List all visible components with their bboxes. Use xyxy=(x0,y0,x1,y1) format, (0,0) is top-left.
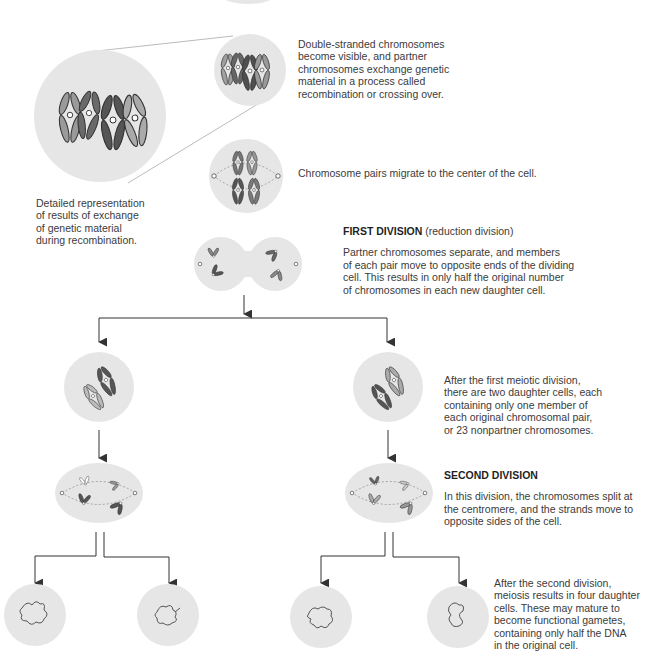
first-division-subheading: (reduction division) xyxy=(425,225,513,237)
daughter-cell-left xyxy=(64,352,134,422)
caption-line: in the original cell. xyxy=(494,639,640,651)
caption-line: material in a process called xyxy=(298,75,449,87)
caption-line: After the second division, xyxy=(494,577,640,589)
gamete-4 xyxy=(427,586,489,648)
caption-line: during recombination. xyxy=(36,234,145,246)
second-division-heading: SECOND DIVISION xyxy=(444,469,633,481)
recombination-cell xyxy=(214,34,286,106)
caption-line: containing only one member of xyxy=(444,399,602,411)
caption-line: of each pair move to opposite ends of th… xyxy=(343,259,574,271)
caption-line: each original chromosomal pair, xyxy=(444,411,602,423)
meiosis-2-cell-left xyxy=(55,463,143,523)
caption-line: containing only half the DNA xyxy=(494,627,640,639)
caption-line: Detailed representation xyxy=(36,197,145,209)
migrate-caption: Chromosome pairs migrate to the center o… xyxy=(298,167,537,179)
caption-line: the centromere, and the strands move to xyxy=(444,503,633,515)
caption-line: of chromosomes in each new daughter cell… xyxy=(343,284,574,296)
recombination-caption: Double-stranded chromosomes become visib… xyxy=(298,38,449,100)
second-division-caption: SECOND DIVISION In this division, the ch… xyxy=(444,469,633,528)
caption-line: recombination or crossing over. xyxy=(298,88,449,100)
caption-line: cells. These may mature to xyxy=(494,602,640,614)
caption-line: opposite sides of the cell. xyxy=(444,515,633,527)
meiosis-diagram xyxy=(0,0,645,668)
division-1-connector xyxy=(99,295,387,342)
caption-line: Chromosome pairs migrate to the center o… xyxy=(298,167,537,179)
caption-line: Partner chromosomes separate, and member… xyxy=(343,246,574,258)
caption-line: In this division, the chromosomes split … xyxy=(444,490,633,502)
caption-line: or 23 nonpartner chromosomes. xyxy=(444,424,602,436)
first-division-heading: FIRST DIVISION xyxy=(343,225,422,237)
after-second-division-caption: After the second division, meiosis resul… xyxy=(494,577,640,651)
daughter-to-meiosis2-arrows xyxy=(99,430,388,458)
caption-line: meiosis results in four daughter xyxy=(494,589,640,601)
caption-line: become visible, and partner xyxy=(298,50,449,62)
caption-line: there are two daughter cells, each xyxy=(444,386,602,398)
detail-caption: Detailed representation of results of ex… xyxy=(36,197,145,247)
gamete-3 xyxy=(290,586,352,648)
first-division-caption: FIRST DIVISION (reduction division) Part… xyxy=(343,225,574,296)
caption-line: cell. This results in only half the orig… xyxy=(343,271,574,283)
division-2-connector xyxy=(35,532,459,583)
caption-line: After the first meiotic division, xyxy=(444,374,602,386)
caption-line: become functional gametes, xyxy=(494,614,640,626)
caption-line: Double-stranded chromosomes xyxy=(298,38,449,50)
gamete-1 xyxy=(4,584,66,646)
gamete-2 xyxy=(137,584,199,646)
metaphase-1-cell xyxy=(209,139,283,213)
caption-line: chromosomes exchange genetic xyxy=(298,63,449,75)
caption-line: of genetic material xyxy=(36,222,145,234)
daughter-cell-right xyxy=(353,352,423,422)
previous-stage-cell xyxy=(220,0,276,4)
after-first-division-caption: After the first meiotic division, there … xyxy=(444,374,602,436)
meiosis-2-cell-right xyxy=(345,463,433,523)
magnified-detail-cell xyxy=(34,50,166,182)
first-division-title: FIRST DIVISION (reduction division) xyxy=(343,225,574,237)
caption-line: of results of exchange xyxy=(36,209,145,221)
anaphase-1-cell xyxy=(194,237,302,291)
zoom-line-top xyxy=(88,36,233,52)
